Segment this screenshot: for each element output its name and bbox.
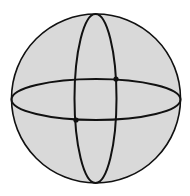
intersection-point-front bbox=[73, 117, 78, 122]
sphere-outline bbox=[12, 14, 181, 183]
sphere-diagram bbox=[0, 0, 190, 196]
intersection-point-back bbox=[113, 76, 118, 81]
